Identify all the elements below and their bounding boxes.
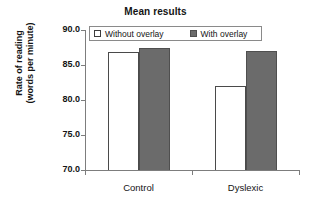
chart-title: Mean results: [0, 6, 311, 17]
y-axis-line: [85, 30, 86, 170]
x-category-label-control: Control: [85, 182, 192, 193]
y-tick-mark: [81, 30, 85, 31]
bar-chart-figure: Mean results Rate of reading (words per …: [0, 0, 311, 205]
bar-dyslexic-with-overlay: [246, 51, 277, 170]
bar-control-without-overlay: [108, 52, 139, 170]
bar-control-with-overlay: [139, 48, 170, 170]
x-tick-mark: [299, 170, 300, 175]
y-axis-title-line-1: Rate of reading: [14, 0, 25, 143]
y-tick-mark: [81, 100, 85, 101]
y-tick-label: 90.0: [62, 24, 80, 34]
y-axis-title-line-2: (words per minute): [25, 0, 36, 143]
y-axis-title: Rate of reading (words per minute): [14, 0, 36, 143]
y-tick-label: 75.0: [62, 129, 80, 139]
legend-entry-without-overlay: Without overlay: [94, 29, 164, 39]
y-tick-label: 70.0: [62, 164, 80, 174]
legend-label: Without overlay: [105, 29, 164, 39]
hollow-square-icon: [94, 30, 101, 37]
y-tick-label: 85.0: [62, 59, 80, 69]
x-tick-mark: [85, 170, 86, 175]
y-tick-mark: [81, 65, 85, 66]
x-tick-mark: [192, 170, 193, 175]
x-category-label-dyslexic: Dyslexic: [192, 182, 299, 193]
chart-legend: Without overlay With overlay: [89, 26, 262, 41]
bar-dyslexic-without-overlay: [215, 86, 246, 170]
legend-entry-with-overlay: With overlay: [190, 29, 248, 39]
y-tick-label: 80.0: [62, 94, 80, 104]
y-tick-mark: [81, 135, 85, 136]
legend-label: With overlay: [201, 29, 248, 39]
filled-square-icon: [190, 30, 197, 37]
plot-area: 90.0 85.0 80.0 75.0 70.0 Control Dyslexi…: [85, 30, 300, 170]
